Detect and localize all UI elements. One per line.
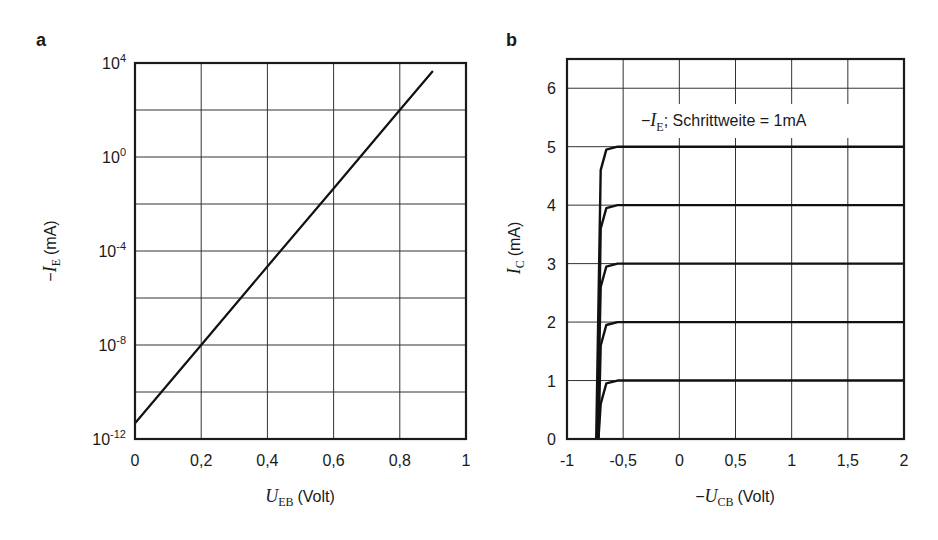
y-tick-label: 100 (102, 146, 126, 166)
panel-a-y-ticks: 10410010-410-810-12 (92, 52, 126, 448)
x-tick-label: -0,5 (609, 452, 637, 469)
y-tick-label: 104 (102, 52, 126, 72)
figure: a 00,20,40,60,81 10410010-410-810-12 UEB… (0, 0, 938, 540)
y-tick-label: 1 (547, 373, 556, 390)
y-tick-label: 10-8 (98, 334, 126, 354)
y-tick-label: 10-12 (92, 428, 126, 448)
y-tick-label: 4 (547, 197, 556, 214)
panel-b-y-axis-label: IC(mA) (504, 222, 527, 276)
x-tick-label: 0,6 (322, 452, 344, 469)
x-tick-label: 0 (131, 452, 140, 469)
panel-b-series (596, 147, 904, 439)
x-tick-label: 0,2 (190, 452, 212, 469)
x-tick-label: 2 (900, 452, 909, 469)
panel-a-label: a (36, 30, 47, 50)
y-tick-label: 3 (547, 256, 556, 273)
x-tick-label: 1,5 (837, 452, 859, 469)
x-tick-label: 0,4 (256, 452, 278, 469)
panel-b: b −IE; Schrittweite = 1mA -1-0,500,511,5… (504, 30, 909, 509)
x-tick-label: 1 (462, 452, 471, 469)
panel-a-grid (135, 63, 466, 439)
data-line (597, 264, 904, 439)
svg-text:−IE(mA): −IE(mA) (40, 220, 63, 281)
y-tick-label: 6 (547, 80, 556, 97)
y-tick-label: 0 (547, 431, 556, 448)
panel-b-y-ticks: 0123456 (547, 80, 556, 448)
data-line (596, 147, 904, 439)
y-tick-label: 5 (547, 139, 556, 156)
x-tick-label: -1 (560, 452, 574, 469)
panel-a-series (135, 71, 433, 423)
data-line (135, 71, 433, 423)
x-tick-label: 0 (675, 452, 684, 469)
x-tick-label: 1 (787, 452, 796, 469)
panel-a: a 00,20,40,60,81 10410010-410-810-12 UEB… (36, 30, 471, 509)
panel-a-y-axis-label: −IE(mA) (40, 220, 63, 281)
x-tick-label: 0,5 (724, 452, 746, 469)
svg-text:IC(mA): IC(mA) (504, 222, 527, 276)
panel-a-x-ticks: 00,20,40,60,81 (131, 452, 471, 469)
y-tick-label: 2 (547, 314, 556, 331)
panel-b-x-ticks: -1-0,500,511,52 (560, 452, 909, 469)
panel-b-x-axis-label: −UCB(Volt) (695, 486, 775, 509)
panel-a-x-axis-label: UEB(Volt) (265, 486, 335, 509)
panel-b-label: b (506, 30, 517, 50)
data-line (598, 381, 904, 439)
y-tick-label: 10-4 (98, 240, 126, 260)
x-tick-label: 0,8 (389, 452, 411, 469)
